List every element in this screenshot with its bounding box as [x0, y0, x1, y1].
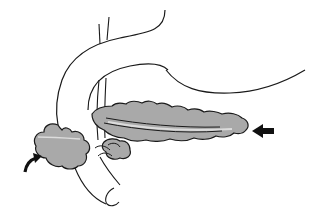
pancreas-diagram	[0, 0, 331, 222]
diagram-svg	[0, 0, 331, 222]
curved-arrow-icon	[25, 153, 42, 172]
lower-tube-left	[75, 168, 106, 204]
right-sweep-outline	[166, 70, 305, 93]
uncinate-lobule	[102, 139, 130, 159]
pancreas-head	[34, 124, 89, 169]
lower-tube-right	[100, 157, 120, 185]
straight-arrow-icon	[252, 124, 274, 138]
vessel-upper-left	[99, 24, 100, 44]
pancreas-body-tail	[92, 101, 248, 141]
vessel-upper-right	[107, 17, 109, 40]
lower-tube-curl	[106, 188, 119, 206]
